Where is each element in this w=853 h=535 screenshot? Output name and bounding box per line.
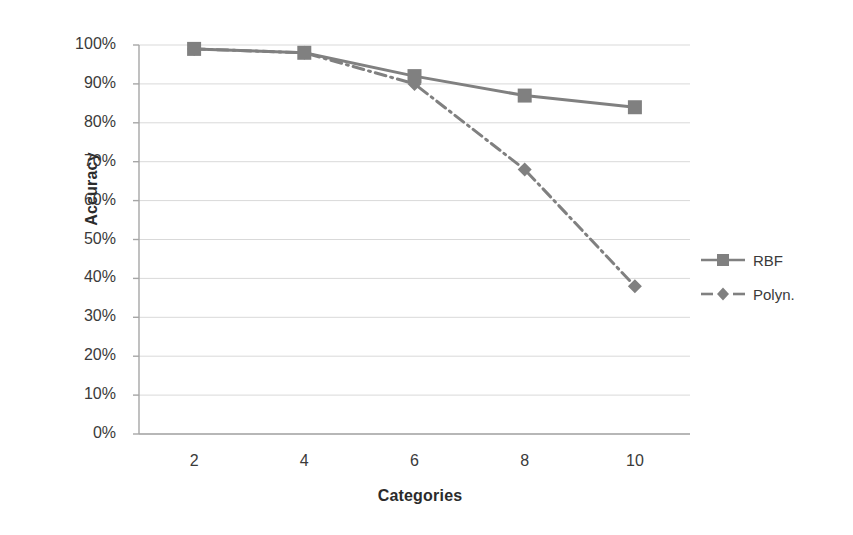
x-tick-label: 6 <box>410 452 419 470</box>
legend-label-rbf: RBF <box>753 252 783 269</box>
legend-label-polyn: Polyn. <box>753 286 795 303</box>
x-tick-label: 2 <box>190 452 199 470</box>
chart-legend: RBF Polyn. <box>700 243 840 311</box>
legend-marker-square-icon <box>700 251 746 269</box>
legend-marker-diamond-icon <box>700 285 746 303</box>
x-tick-label: 4 <box>300 452 309 470</box>
legend-item-polyn: Polyn. <box>700 277 840 311</box>
x-tick-label: 8 <box>520 452 529 470</box>
x-tick-label: 10 <box>626 452 644 470</box>
accuracy-vs-categories-chart: Accuracy Categories 0%10%20%30%40%50%60%… <box>0 0 853 535</box>
legend-item-rbf: RBF <box>700 243 840 277</box>
